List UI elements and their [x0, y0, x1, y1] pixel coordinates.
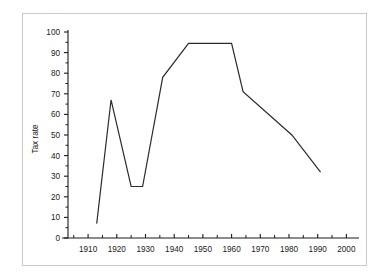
tax-rate-line-chart: 0102030405060708090100191019201930194019…	[0, 0, 388, 279]
x-tick-label: 1970	[251, 245, 270, 254]
data-series-line	[97, 43, 321, 223]
x-tick-label: 1960	[222, 245, 241, 254]
x-tick-label: 1920	[108, 245, 127, 254]
y-tick-label: 0	[55, 234, 60, 243]
y-tick-label: 50	[51, 131, 61, 140]
y-axis-title: Tax rate	[31, 124, 40, 154]
y-tick-label: 70	[51, 90, 61, 99]
x-tick-label: 1990	[309, 245, 328, 254]
y-tick-label: 40	[51, 152, 61, 161]
x-tick-label: 1930	[136, 245, 155, 254]
y-tick-label: 100	[46, 28, 60, 37]
y-tick-label: 30	[51, 172, 61, 181]
x-tick-label: 1980	[280, 245, 299, 254]
x-tick-label: 1910	[79, 245, 98, 254]
y-tick-label: 60	[51, 110, 61, 119]
y-tick-label: 90	[51, 49, 61, 58]
y-tick-label: 20	[51, 193, 61, 202]
x-tick-label: 2000	[337, 245, 356, 254]
x-tick-label: 1950	[194, 245, 213, 254]
x-tick-label: 1940	[165, 245, 184, 254]
y-tick-label: 80	[51, 69, 61, 78]
y-tick-label: 10	[51, 213, 61, 222]
